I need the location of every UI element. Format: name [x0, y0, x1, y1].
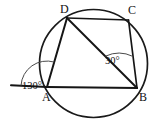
circumscribed-circle [40, 10, 148, 118]
segment-ab [47, 87, 137, 88]
angle-label-130: 130° [22, 80, 42, 91]
segment-ad [47, 18, 67, 87]
vertex-label-c: C [128, 3, 136, 17]
vertex-label-b: B [139, 90, 147, 104]
vertex-label-d: D [60, 2, 69, 16]
angle-label-30: 30° [105, 55, 120, 66]
segment-db [67, 18, 137, 88]
vertex-label-a: A [42, 90, 51, 104]
geometry-canvas: A B C D 130° 30° [0, 0, 159, 130]
segment-dc [67, 18, 129, 20]
geometry-diagram: A B C D 130° 30° [0, 0, 159, 130]
